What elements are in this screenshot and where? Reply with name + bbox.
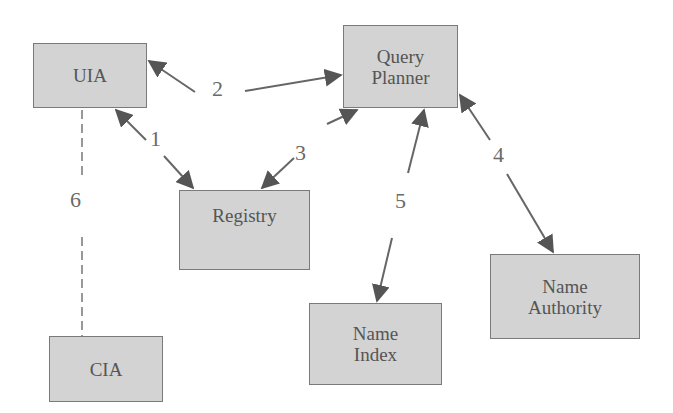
node-name-index: Name Index	[309, 303, 442, 385]
edge-4-bottom	[507, 174, 553, 252]
edge-1-bottom	[164, 156, 193, 188]
node-registry-label: Registry	[212, 205, 276, 226]
node-uia-label: UIA	[73, 65, 107, 86]
edge-label-5: 5	[395, 190, 406, 212]
node-name-authority-line1: Name	[542, 276, 587, 297]
node-name-index-line2: Index	[354, 344, 397, 365]
edge-label-1: 1	[150, 128, 161, 150]
edge-2-left	[149, 61, 195, 92]
edge-5-top	[408, 110, 424, 173]
node-query-planner: Query Planner	[343, 25, 458, 108]
node-cia: CIA	[49, 336, 163, 402]
node-query-planner-line1: Query	[377, 46, 424, 67]
edge-label-6: 6	[70, 189, 81, 211]
edge-2-right	[245, 75, 341, 91]
node-name-index-line1: Name	[353, 323, 398, 344]
edge-4-top	[460, 95, 490, 140]
edge-3-bottom	[262, 158, 294, 188]
edge-label-4: 4	[493, 144, 504, 166]
edge-3-top	[327, 110, 357, 124]
edge-label-2: 2	[212, 78, 223, 100]
edge-5-bottom	[377, 238, 392, 301]
edge-label-3: 3	[295, 142, 306, 164]
node-query-planner-line2: Planner	[371, 67, 429, 88]
edge-1-top	[116, 110, 146, 140]
node-uia: UIA	[33, 43, 147, 108]
node-cia-label: CIA	[90, 359, 123, 380]
node-registry: Registry	[179, 190, 310, 270]
node-name-authority: Name Authority	[490, 254, 640, 339]
node-name-authority-line2: Authority	[528, 297, 602, 318]
